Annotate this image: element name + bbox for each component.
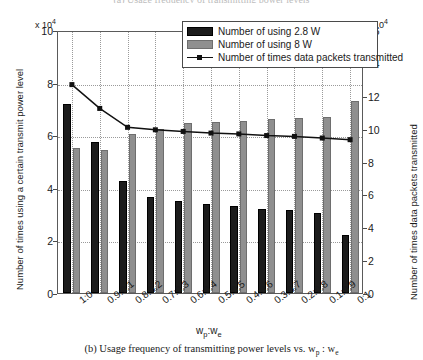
right-tick-label: 4 [368, 222, 394, 234]
right-tick-mark [363, 163, 367, 164]
line-marker-square [69, 82, 74, 87]
legend-label-2: Number of times data packets transmitted [218, 52, 403, 63]
line-marker-square [236, 131, 241, 136]
right-tick-label: 10 [368, 124, 394, 136]
legend-line-marker-icon [187, 53, 213, 62]
x-tick-label: 1:0 [77, 297, 84, 306]
left-tick-mark [53, 84, 57, 85]
x-tick-label: 0.3:0.7 [272, 297, 279, 306]
top-caption-clipped: (a) Usage frequency of transmitting powe… [0, 0, 423, 3]
line-series-data-packets [58, 32, 364, 295]
x-tick-label: 0.8:0.2 [133, 297, 140, 306]
caption-wp: w [308, 343, 316, 354]
line-marker-square [292, 134, 297, 139]
legend-item-1: Number of using 8 W [187, 38, 373, 51]
left-exponent-sup: 4 [52, 18, 56, 25]
line-marker-square [348, 137, 353, 142]
x-axis-title: wp:we [196, 325, 222, 339]
line-marker-square [320, 136, 325, 141]
plot-area [57, 31, 363, 294]
x-tick-label: 0.5:0.5 [216, 297, 223, 306]
x-tick-label: 0.1:0.9 [327, 297, 334, 306]
x-tick-label: 0.4:0.6 [244, 297, 251, 306]
left-tick-label: 2 [29, 235, 53, 247]
x-tick-label: 0.7:0.3 [160, 297, 167, 306]
right-tick-label: 0 [368, 288, 394, 300]
line-marker-square [153, 127, 158, 132]
left-tick-mark [53, 294, 57, 295]
line-marker-square [181, 129, 186, 134]
left-tick-label: 0 [29, 288, 53, 300]
right-tick-mark [363, 195, 367, 196]
legend-label-1: Number of using 8 W [218, 39, 312, 50]
x-tick-label: 0.2:0.8 [299, 297, 306, 306]
legend-gray-swatch-icon [187, 40, 213, 49]
caption-prefix: (b) Usage frequency of transmitting powe… [84, 343, 308, 354]
x-title-e: e [217, 330, 221, 339]
right-tick-mark [363, 261, 367, 262]
x-title-colon: :w [207, 325, 217, 336]
left-tick-mark [53, 136, 57, 137]
left-tick-label: 6 [29, 130, 53, 142]
left-tick-mark [53, 241, 57, 242]
caption-we-sub: e [335, 348, 338, 357]
right-tick-label: 2 [368, 255, 394, 267]
line-marker-square [264, 133, 269, 138]
right-tick-label: 6 [368, 189, 394, 201]
x-tick-label: 0.6:0.4 [188, 297, 195, 306]
left-axis-title: Number of times using a certain transmit… [14, 69, 25, 290]
legend-dark-swatch-icon [187, 27, 213, 36]
right-tick-mark [363, 97, 367, 98]
left-tick-label: 4 [29, 183, 53, 195]
figure-caption: (b) Usage frequency of transmitting powe… [0, 343, 423, 357]
left-tick-label: 8 [29, 78, 53, 90]
figure-container: (a) Usage frequency of transmitting powe… [0, 0, 423, 360]
right-tick-mark [363, 228, 367, 229]
caption-sep: : [319, 343, 327, 354]
legend-label-0: Number of using 2.8 W [218, 26, 320, 37]
legend: Number of using 2.8 W Number of using 8 … [182, 21, 378, 68]
right-tick-label: 8 [368, 157, 394, 169]
line-marker-square [209, 131, 214, 136]
line-marker-square [97, 106, 102, 111]
legend-item-0: Number of using 2.8 W [187, 25, 373, 38]
left-tick-label: 10 [29, 25, 53, 37]
right-axis-title: Number of times data packets transmitted [408, 124, 419, 300]
line-marker-square [125, 125, 130, 130]
x-tick-label: 0:1 [355, 297, 362, 306]
right-tick-label: 12 [368, 91, 394, 103]
x-tick-label: 0.9:0.1 [105, 297, 112, 306]
left-tick-mark [53, 31, 57, 32]
left-tick-mark [53, 189, 57, 190]
legend-item-2: Number of times data packets transmitted [187, 51, 373, 64]
right-tick-mark [363, 130, 367, 131]
right-exponent-sup: 4 [384, 18, 388, 25]
